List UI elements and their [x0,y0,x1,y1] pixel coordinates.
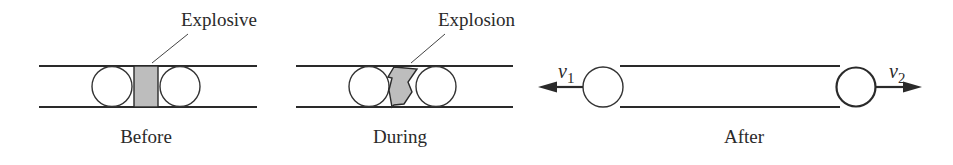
explosive-leader-line [152,34,188,63]
ball-right [416,67,456,107]
explosion-label: Explosion [438,9,516,30]
ball-left [583,67,623,107]
velocity-label-v1: v1 [558,60,574,86]
arrow-head-left-icon [538,82,557,93]
ball-left [349,67,389,107]
explosion-diagram: Explosive Before Explosion During v1 v2 … [0,0,953,165]
explosion-leader-line [411,34,445,63]
panel-before: Explosive Before [39,9,257,147]
explosive-label: Explosive [181,9,257,30]
arrow-head-right-icon [903,82,922,93]
explosion-shape [388,67,417,107]
caption-before: Before [120,126,172,147]
explosive-charge [134,66,158,107]
ball-right [160,67,200,107]
caption-after: After [724,126,765,147]
caption-during: During [373,126,427,147]
panel-during: Explosion During [296,9,516,147]
ball-left [92,67,132,107]
velocity-label-v2: v2 [889,60,905,86]
ball-right [837,68,876,107]
panel-after: v1 v2 After [538,60,922,147]
